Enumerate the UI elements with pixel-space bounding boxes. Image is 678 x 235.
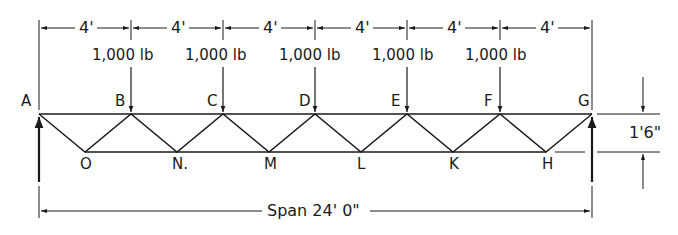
load-label-b: 1,000 lb bbox=[92, 48, 153, 63]
node-label-l: L bbox=[357, 157, 365, 172]
node-label-h: H bbox=[542, 157, 553, 172]
panel-dim-6: 4' bbox=[540, 20, 555, 36]
node-label-d: D bbox=[299, 94, 311, 109]
load-label-f: 1,000 lb bbox=[465, 48, 526, 63]
panel-dim-3: 4' bbox=[263, 20, 278, 36]
load-label-c: 1,000 lb bbox=[185, 48, 246, 63]
node-label-c: C bbox=[207, 94, 217, 109]
panel-dim-1: 4' bbox=[79, 20, 94, 36]
load-label-e: 1,000 lb bbox=[372, 48, 433, 63]
load-label-d: 1,000 lb bbox=[279, 48, 340, 63]
node-label-k: K bbox=[449, 157, 459, 172]
span-label: Span 24' 0" bbox=[267, 203, 360, 219]
truss-drawing bbox=[0, 0, 678, 235]
node-label-e: E bbox=[391, 94, 400, 109]
panel-dim-5: 4' bbox=[447, 20, 462, 36]
node-label-n: N. bbox=[172, 157, 188, 172]
node-label-a: A bbox=[21, 94, 31, 109]
panel-dim-4: 4' bbox=[355, 20, 370, 36]
node-label-m: M bbox=[264, 157, 277, 172]
node-label-b: B bbox=[115, 94, 125, 109]
height-dimension-label: 1'6" bbox=[629, 125, 661, 141]
node-label-o: O bbox=[80, 157, 92, 172]
node-label-g: G bbox=[578, 94, 590, 109]
node-label-f: F bbox=[484, 94, 493, 109]
web-members bbox=[39, 114, 592, 152]
panel-dim-2: 4' bbox=[171, 20, 186, 36]
